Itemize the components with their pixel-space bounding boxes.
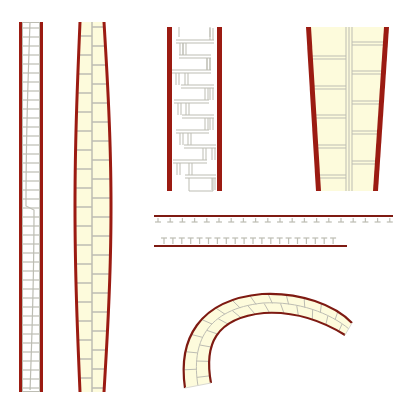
rail-bottom <box>154 238 347 246</box>
curved-wall <box>184 294 352 388</box>
wall-straight-narrow <box>19 22 43 392</box>
wall-zigzag-rect <box>167 27 222 191</box>
wall-tapered <box>306 27 389 191</box>
wall-patterns-diagram <box>0 0 409 411</box>
rail-top <box>154 216 393 222</box>
wall-bulged <box>75 22 111 392</box>
